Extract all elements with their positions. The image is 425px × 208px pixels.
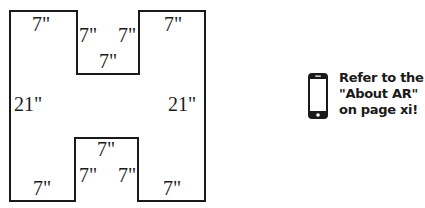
ar-reference-note: Refer to the "About AR" on page xi! [305,70,425,126]
label-bottom-notch-left: 7" [79,165,97,185]
label-bottom-left: 7" [33,178,51,198]
ar-note-text: Refer to the "About AR" on page xi! [339,70,424,118]
label-top-left: 7" [32,14,50,34]
ar-note-line-2: "About AR" [339,86,424,102]
label-top-notch-bottom: 7" [99,51,117,71]
label-top-right: 7" [164,14,182,34]
label-bottom-notch-right: 7" [118,165,136,185]
ar-note-line-1: Refer to the [339,70,424,86]
label-bottom-notch-top: 7" [97,139,115,159]
label-top-notch-right: 7" [118,25,136,45]
label-right-side: 21" [168,94,196,114]
ar-note-line-3: on page xi! [339,102,424,118]
label-top-notch-left: 7" [79,25,97,45]
label-left-side: 21" [14,94,42,114]
smartphone-icon [307,72,329,120]
label-bottom-right: 7" [163,178,181,198]
